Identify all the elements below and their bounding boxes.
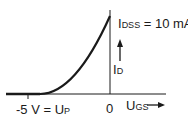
ugs-label: UGS xyxy=(126,99,148,114)
id-label: ID xyxy=(113,63,123,78)
ugs-symbol: U xyxy=(126,98,135,113)
pinch-off-value: -5 V = U xyxy=(16,102,64,117)
idss-subscript: DSS xyxy=(122,20,141,30)
transfer-curve xyxy=(40,16,110,94)
id-arrow-head-icon xyxy=(117,39,123,47)
ugs-subscript: GS xyxy=(135,102,148,112)
idss-label: IDSS = 10 mA xyxy=(118,17,188,32)
origin-label: 0 xyxy=(106,102,113,115)
idss-value: = 10 mA xyxy=(140,16,188,31)
id-subscript: D xyxy=(117,66,124,76)
ugs-arrow-head-icon xyxy=(158,102,165,108)
pinch-off-subscript: P xyxy=(64,106,70,116)
pinch-off-label: -5 V = UP xyxy=(16,103,70,118)
